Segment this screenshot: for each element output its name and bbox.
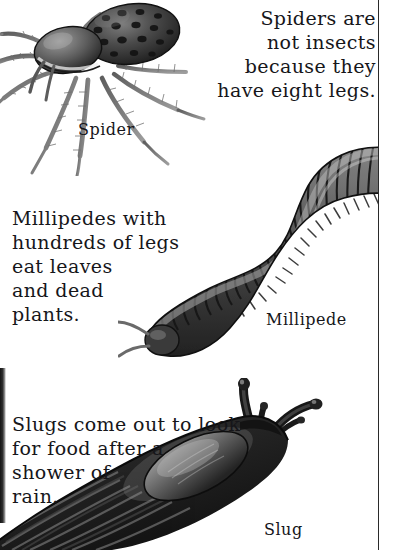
label-spider: Spider (78, 120, 135, 139)
book-page: Spiders are not insects because they hav… (0, 0, 398, 550)
label-slug: Slug (264, 520, 303, 539)
caption-spider: Spiders are not insects because they hav… (196, 6, 376, 102)
label-millipede: Millipede (266, 310, 347, 329)
caption-slug: Slugs come out to look for food after a … (12, 412, 242, 508)
right-margin (379, 0, 398, 550)
page-gutter-shadow (0, 368, 6, 523)
right-margin-rule (378, 0, 379, 550)
caption-millipede: Millipedes with hundreds of legs eat lea… (12, 206, 232, 326)
